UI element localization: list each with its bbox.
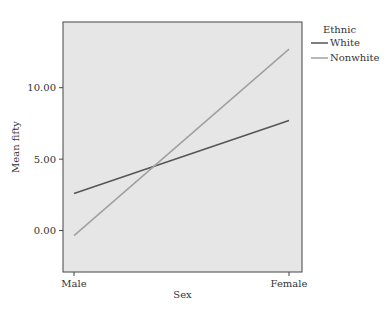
y-tick-label: 10.00 bbox=[27, 82, 56, 93]
legend-label-nonwhite: Nonwhite bbox=[330, 52, 379, 63]
y-axis-title: Mean fifty bbox=[10, 121, 21, 173]
x-axis: MaleFemale bbox=[61, 272, 307, 289]
y-axis: 0.005.0010.00 bbox=[27, 82, 63, 236]
x-tick-label: Female bbox=[271, 278, 308, 289]
legend-title: Ethnic bbox=[323, 24, 356, 35]
legend: Ethnic WhiteNonwhite bbox=[311, 24, 379, 63]
y-tick-label: 5.00 bbox=[34, 154, 56, 165]
x-axis-title: Sex bbox=[173, 289, 192, 300]
legend-label-white: White bbox=[330, 37, 360, 48]
y-tick-label: 0.00 bbox=[34, 225, 56, 236]
x-tick-label: Male bbox=[61, 278, 86, 289]
plot-area bbox=[63, 22, 302, 272]
chart: 0.005.0010.00 MaleFemale Sex Mean fifty … bbox=[0, 0, 390, 316]
